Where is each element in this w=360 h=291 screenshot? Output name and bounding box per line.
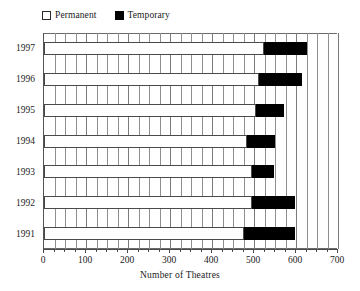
bar-segment-permanent [44, 227, 244, 240]
x-axis-tick [264, 249, 265, 252]
bar-segment-temporary [256, 104, 284, 117]
bar-row [44, 135, 337, 148]
x-axis-tick [159, 249, 160, 252]
x-axis-tick [85, 249, 86, 253]
gridline [338, 33, 339, 249]
x-axis-tick [180, 249, 181, 252]
bar-segment-temporary [259, 73, 302, 86]
x-axis-tick [106, 249, 107, 252]
bar-rows [44, 33, 337, 249]
x-axis-tick [306, 249, 307, 252]
x-axis-ticks [43, 249, 337, 254]
legend-entry-permanent: Permanent [42, 10, 97, 20]
x-axis-tick-label: 0 [41, 255, 46, 265]
bar-stack [44, 104, 284, 117]
legend-label-permanent: Permanent [55, 10, 97, 20]
legend-entry-temporary: Temporary [115, 10, 170, 20]
bar-segment-permanent [44, 42, 264, 55]
bar-segment-temporary [244, 227, 294, 240]
bar-segment-permanent [44, 135, 247, 148]
x-axis-tick [75, 249, 76, 252]
temporary-swatch-icon [115, 11, 124, 20]
x-axis-tick [253, 249, 254, 253]
y-axis-label: 1991 [16, 229, 35, 239]
x-axis-tick [327, 249, 328, 252]
x-axis-tick [232, 249, 233, 252]
x-axis-tick [117, 249, 118, 252]
x-axis-tick [64, 249, 65, 252]
permanent-swatch-icon [42, 11, 51, 20]
bar-row [44, 42, 337, 55]
bar-segment-permanent [44, 73, 259, 86]
y-axis-labels: 1997199619951994199319921991 [0, 33, 39, 249]
bar-stack [44, 73, 302, 86]
x-axis-tick [148, 249, 149, 252]
bar-stack [44, 227, 295, 240]
legend-label-temporary: Temporary [128, 10, 170, 20]
bar-stack [44, 42, 307, 55]
bar-segment-permanent [44, 104, 256, 117]
bar-stack [44, 135, 275, 148]
x-axis-tick-label: 100 [78, 255, 92, 265]
y-axis-label: 1996 [16, 74, 35, 84]
bar-stack [44, 165, 274, 178]
bar-row [44, 73, 337, 86]
x-axis-tick [316, 249, 317, 252]
x-axis-tick-labels: 0100200300400500600700 [0, 255, 360, 269]
bar-segment-temporary [247, 135, 275, 148]
x-axis-tick [190, 249, 191, 252]
x-axis-tick [285, 249, 286, 252]
chart-legend: Permanent Temporary [42, 7, 182, 23]
y-axis-label: 1997 [16, 43, 35, 53]
y-axis-label: 1992 [16, 198, 35, 208]
bar-segment-temporary [264, 42, 308, 55]
y-axis-label: 1994 [16, 136, 35, 146]
bar-row [44, 196, 337, 209]
x-axis-tick [169, 249, 170, 253]
bar-row [44, 227, 337, 240]
bar-segment-temporary [252, 165, 274, 178]
bar-segment-temporary [252, 196, 295, 209]
x-axis-tick [274, 249, 275, 252]
x-axis-tick [138, 249, 139, 252]
x-axis-tick-label: 400 [204, 255, 218, 265]
x-axis-tick [222, 249, 223, 252]
x-axis-tick [295, 249, 296, 253]
y-axis-label: 1995 [16, 105, 35, 115]
x-axis-tick [127, 249, 128, 253]
x-axis-tick-label: 300 [162, 255, 176, 265]
x-axis-tick-label: 700 [330, 255, 344, 265]
theatres-stacked-bar-chart: Permanent Temporary 19971996199519941993… [0, 0, 360, 291]
x-axis-tick [337, 249, 338, 253]
bar-row [44, 104, 337, 117]
x-axis-title: Number of Theatres [0, 270, 360, 280]
x-axis-tick [211, 249, 212, 253]
y-axis-label: 1993 [16, 167, 35, 177]
bar-stack [44, 196, 295, 209]
x-axis-tick [96, 249, 97, 252]
bar-row [44, 165, 337, 178]
x-axis-tick-label: 200 [120, 255, 134, 265]
x-axis-tick-label: 500 [246, 255, 260, 265]
x-axis-tick [43, 249, 44, 253]
x-axis-tick [243, 249, 244, 252]
x-axis-tick [201, 249, 202, 252]
bar-segment-permanent [44, 196, 252, 209]
plot-area [43, 33, 337, 249]
x-axis-tick-label: 600 [288, 255, 302, 265]
x-axis-tick [54, 249, 55, 252]
bar-segment-permanent [44, 165, 252, 178]
